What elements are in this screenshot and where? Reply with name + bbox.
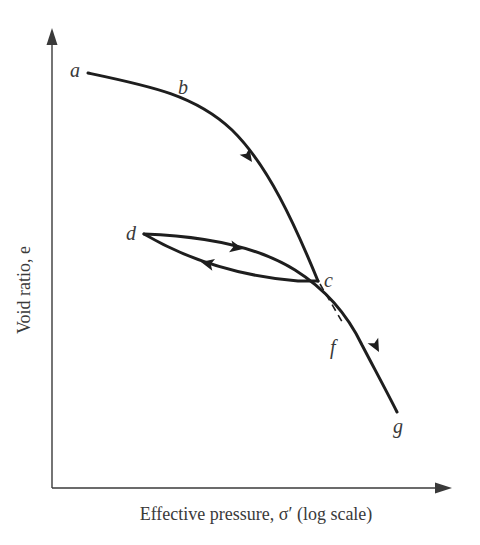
point-label-g: g bbox=[393, 415, 403, 438]
y-axis-arrow-icon bbox=[47, 28, 58, 45]
point-label-d: d bbox=[126, 222, 137, 244]
curve-c-to-d bbox=[144, 234, 318, 281]
point-label-a: a bbox=[70, 59, 80, 81]
curve-a-to-c bbox=[88, 73, 318, 281]
x-axis-label: Effective pressure, σ′ (log scale) bbox=[140, 504, 373, 525]
curve-d-to-g bbox=[144, 234, 397, 412]
y-axis-label: Void ratio, e bbox=[14, 246, 34, 334]
reloading-arrow-lower-icon bbox=[368, 338, 385, 355]
point-label-c: c bbox=[324, 269, 333, 291]
point-label-f: f bbox=[330, 336, 338, 359]
void-ratio-pressure-diagram: a b c d f g Effective pressure, σ′ (log … bbox=[0, 0, 480, 545]
point-label-b: b bbox=[178, 76, 188, 98]
x-axis-arrow-icon bbox=[435, 483, 452, 494]
